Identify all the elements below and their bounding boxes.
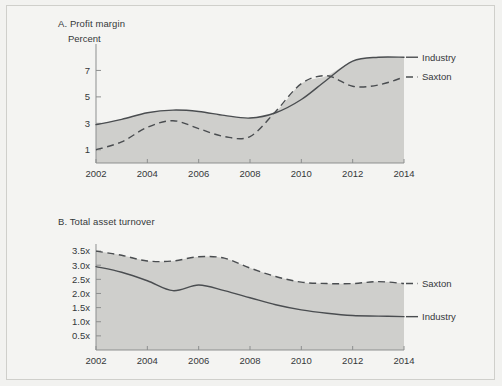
figure-page: A. Profit margin Percent 135720022004200… <box>0 0 502 386</box>
y-axis-tick-label: 3 <box>85 118 90 129</box>
x-axis-tick-label: 2004 <box>137 168 158 179</box>
x-axis-tick-label: 2002 <box>85 168 106 179</box>
y-axis-tick-label: 2.5x <box>72 274 90 285</box>
legend-label-saxton: Saxton <box>422 278 452 289</box>
panel-a-plot: 13572002200420062008201020122014Industry… <box>0 0 502 195</box>
y-axis-tick-label: 5 <box>85 91 90 102</box>
panel-profit-margin: A. Profit margin Percent 135720022004200… <box>0 0 502 195</box>
y-axis-tick-label: 1 <box>85 144 90 155</box>
y-axis-tick-label: 7 <box>85 65 90 76</box>
x-axis-tick-label: 2010 <box>291 355 312 366</box>
x-axis-tick-label: 2006 <box>188 168 209 179</box>
x-axis-tick-label: 2006 <box>188 355 209 366</box>
x-axis-tick-label: 2004 <box>137 355 158 366</box>
legend-label-industry: Industry <box>422 311 456 322</box>
x-axis-tick-label: 2014 <box>393 355 414 366</box>
x-axis-tick-label: 2012 <box>342 168 363 179</box>
x-axis-tick-label: 2010 <box>291 168 312 179</box>
x-axis-tick-label: 2012 <box>342 355 363 366</box>
panel-asset-turnover: B. Total asset turnover 0.5x1.0x1.5x2.0x… <box>0 195 502 386</box>
x-axis-tick-label: 2002 <box>85 355 106 366</box>
x-axis-tick-label: 2014 <box>393 168 414 179</box>
legend-label-industry: Industry <box>422 52 456 63</box>
y-axis-tick-label: 3.5x <box>72 245 90 256</box>
y-axis-tick-label: 2.0x <box>72 288 90 299</box>
y-axis-tick-label: 0.5x <box>72 330 90 341</box>
x-axis-tick-label: 2008 <box>239 355 260 366</box>
y-axis-tick-label: 3.0x <box>72 260 90 271</box>
y-axis-tick-label: 1.5x <box>72 302 90 313</box>
legend-label-saxton: Saxton <box>422 71 452 82</box>
x-axis-tick-label: 2008 <box>239 168 260 179</box>
panel-b-plot: 0.5x1.0x1.5x2.0x2.5x3.0x3.5x200220042006… <box>0 195 502 386</box>
y-axis-tick-label: 1.0x <box>72 316 90 327</box>
